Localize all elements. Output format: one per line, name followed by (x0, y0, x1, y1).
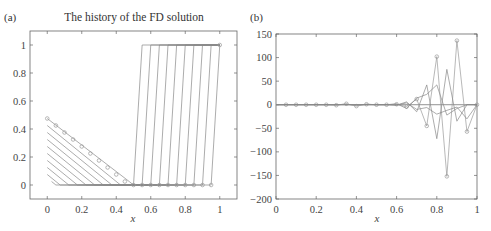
x-tick-label: 0.6 (390, 204, 403, 215)
y-tick-label: 0 (21, 180, 26, 191)
panel-b-xlabel: x (374, 212, 380, 224)
y-tick-label: −200 (250, 194, 272, 205)
y-tick-label: 0.2 (13, 152, 26, 163)
data-marker (106, 166, 110, 170)
series-line (47, 45, 220, 185)
y-tick-label: −150 (250, 170, 272, 181)
x-tick-label: 0 (273, 204, 278, 215)
series-line (47, 45, 220, 185)
x-tick-label: 0 (45, 204, 50, 215)
panel-a-plot: 00.20.40.60.8100.20.40.60.81 (13, 31, 237, 215)
series-line (47, 45, 220, 185)
series-line (276, 103, 477, 119)
y-tick-label: 1 (21, 40, 26, 51)
x-tick-label: 0.6 (144, 204, 157, 215)
x-tick-label: 0.8 (179, 204, 192, 215)
x-tick-label: 1 (217, 204, 222, 215)
series-line (47, 45, 220, 185)
series-line (47, 45, 220, 185)
x-tick-label: 0.2 (310, 204, 323, 215)
series-line (47, 45, 220, 185)
panel-a-xlabel: x (130, 212, 136, 224)
x-tick-label: 1 (474, 204, 479, 215)
x-tick-label: 0.8 (430, 204, 443, 215)
y-tick-label: 0.4 (13, 124, 27, 135)
series-line (47, 45, 220, 185)
panel-a-title: The history of the FD solution (64, 11, 204, 24)
figure: (a) The history of the FD solution 00.20… (0, 0, 491, 231)
data-marker (97, 159, 101, 163)
panel-b-label: (b) (250, 11, 263, 24)
series-line (276, 69, 477, 138)
y-tick-label: 0.6 (13, 96, 26, 107)
data-marker (114, 173, 118, 177)
series-line (276, 41, 477, 177)
data-marker (123, 180, 127, 184)
y-tick-label: 50 (262, 76, 273, 87)
panel-b-plot: 00.20.40.60.81150100500−50−100−150−200 (250, 29, 479, 216)
data-marker (89, 152, 93, 156)
y-tick-label: 150 (256, 29, 272, 40)
y-tick-label: 100 (256, 52, 272, 63)
y-tick-label: −100 (250, 146, 272, 157)
y-tick-label: 0 (267, 99, 272, 110)
series-line (52, 45, 220, 185)
series-line (47, 45, 220, 185)
y-tick-label: 0.8 (13, 68, 26, 79)
series-line (47, 45, 220, 185)
x-tick-label: 0.4 (350, 204, 364, 215)
y-tick-label: −50 (256, 123, 272, 134)
x-tick-label: 0.2 (75, 204, 88, 215)
plot-frame (30, 31, 237, 199)
x-tick-label: 0.4 (110, 204, 124, 215)
panel-a-label: (a) (4, 11, 17, 24)
